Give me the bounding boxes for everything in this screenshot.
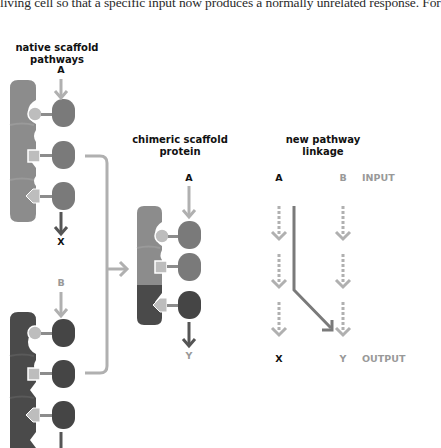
linkage-dashed-a <box>272 206 286 335</box>
linkage-dashed-b <box>336 206 350 335</box>
chimeric-output-y: Y <box>183 350 195 361</box>
native-output-x: X <box>55 236 67 247</box>
recombination-bracket <box>85 156 107 373</box>
chimeric-enzyme-3 <box>178 291 201 319</box>
circle-domain-icon <box>155 229 169 243</box>
chimeric-enzyme-1 <box>178 221 201 249</box>
enzyme-1b <box>52 319 75 347</box>
enzyme-3a <box>52 182 75 210</box>
linkage-input-a: A <box>273 172 285 183</box>
linkage-output-x: X <box>273 353 285 364</box>
circle-domain-icon <box>28 326 42 340</box>
enzyme-2b <box>52 360 75 388</box>
square-domain-icon <box>28 368 40 380</box>
circle-domain-icon <box>28 107 42 121</box>
enzyme-3b <box>52 401 75 429</box>
native-input-b: B <box>55 277 67 288</box>
native-input-a: A <box>55 64 67 75</box>
enzyme-1a <box>52 99 75 127</box>
enzyme-2a <box>52 141 75 169</box>
chimeric-enzyme-2 <box>178 253 201 281</box>
linkage-output-y: Y <box>337 353 349 364</box>
chimeric-input-a: A <box>183 172 195 183</box>
output-label: OUTPUT <box>362 353 405 364</box>
linkage-input-b: B <box>337 172 349 183</box>
new-link-arrow <box>294 206 331 328</box>
square-domain-icon <box>155 261 167 273</box>
square-domain-icon <box>28 150 40 162</box>
input-label: INPUT <box>362 172 395 183</box>
